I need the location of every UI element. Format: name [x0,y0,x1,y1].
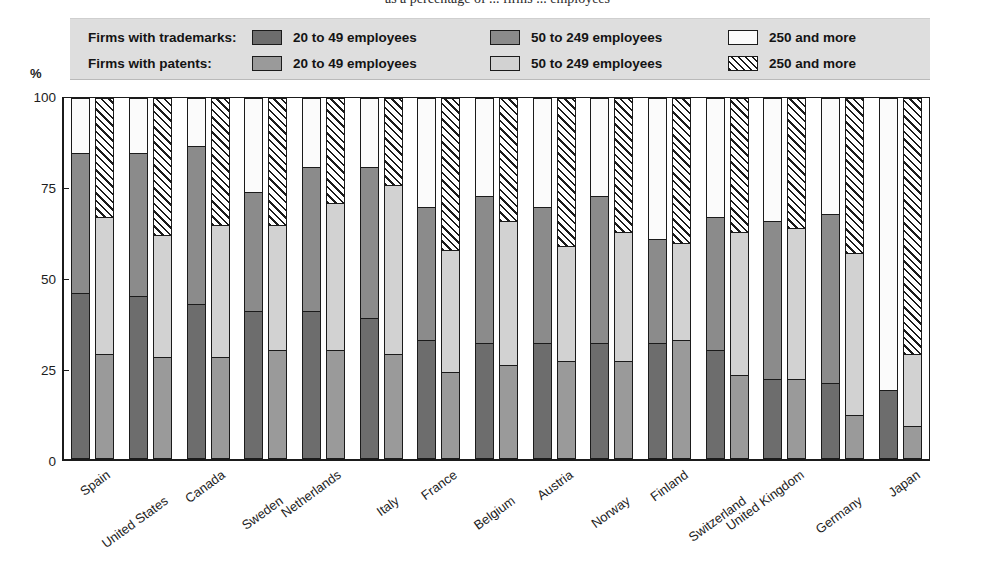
segment-patents-20-to-49 [558,361,575,458]
legend-item-trademarks-medium: 50 to 249 employees [490,30,728,45]
legend-row-label-patents: Firms with patents: [70,56,252,71]
y-tick-label: 50 [16,272,56,287]
segment-trademarks-250-and-more [245,99,262,192]
segment-trademarks-50-to-249 [534,207,551,343]
segment-trademarks-50-to-249 [130,153,147,297]
y-tick-label: 25 [16,363,56,378]
segment-patents-250-and-more [269,99,286,225]
segment-patents-250-and-more [327,99,344,203]
segment-patents-20-to-49 [96,354,113,458]
segment-patents-50-to-249 [442,250,459,372]
segment-trademarks-250-and-more [72,99,89,153]
legend-item-patents-medium: 50 to 249 employees [490,56,728,71]
legend-label-trademarks-small: 20 to 49 employees [293,30,417,45]
segment-trademarks-250-and-more [303,99,320,167]
bar-group [698,98,756,459]
segment-patents-50-to-249 [731,232,748,376]
segment-trademarks-250-and-more [418,99,435,207]
chart-legend: Firms with trademarks: 20 to 49 employee… [70,18,930,80]
x-axis-label: Norway [589,493,633,531]
bar-group [64,98,122,459]
segment-trademarks-250-and-more [361,99,378,167]
segment-patents-20-to-49 [673,340,690,458]
bar-trademarks [417,98,436,459]
segment-patents-250-and-more [904,99,921,354]
bar-patents [672,98,691,459]
x-axis-label: Belgium [471,493,518,533]
bar-trademarks [590,98,609,459]
segment-patents-20-to-49 [442,372,459,458]
segment-patents-50-to-249 [269,225,286,351]
bar-patents [211,98,230,459]
segment-trademarks-20-to-49 [303,311,320,458]
bar-patents [268,98,287,459]
segment-trademarks-50-to-249 [764,221,781,379]
x-axis-label: Netherlands [278,467,344,520]
segment-patents-250-and-more [96,99,113,217]
segment-trademarks-20-to-49 [418,340,435,458]
segment-patents-250-and-more [442,99,459,250]
segment-trademarks-20-to-49 [649,343,666,458]
segment-patents-20-to-49 [269,350,286,458]
segment-trademarks-20-to-49 [361,318,378,458]
segment-patents-250-and-more [788,99,805,228]
bar-trademarks [475,98,494,459]
segment-trademarks-50-to-249 [188,146,205,304]
segment-patents-20-to-49 [904,426,921,458]
bar-trademarks [302,98,321,459]
segment-trademarks-50-to-249 [649,239,666,343]
x-axis-label: United States [98,493,170,551]
bar-trademarks [71,98,90,459]
segment-trademarks-50-to-249 [418,207,435,340]
segment-patents-50-to-249 [558,246,575,361]
legend-row-patents: Firms with patents: 20 to 49 employees 5… [70,50,930,76]
segment-patents-250-and-more [154,99,171,235]
bar-group [583,98,641,459]
segment-patents-20-to-49 [385,354,402,458]
segment-trademarks-250-and-more [130,99,147,153]
bar-trademarks [244,98,263,459]
bar-patents [730,98,749,459]
x-axis-label: Austria [534,467,576,503]
x-axis-label: Finland [648,467,691,504]
legend-label-patents-small: 20 to 49 employees [293,56,417,71]
segment-patents-250-and-more [731,99,748,232]
segment-patents-250-and-more [500,99,517,221]
bar-group [179,98,237,459]
bar-group [410,98,468,459]
swatch-mid-gray-icon [490,30,520,45]
swatch-hatched-icon [728,56,758,71]
segment-patents-250-and-more [558,99,575,246]
segment-patents-50-to-249 [385,185,402,354]
x-axis-label: France [418,467,460,503]
segment-patents-50-to-249 [788,228,805,379]
segment-trademarks-250-and-more [764,99,781,221]
segment-patents-20-to-49 [788,379,805,458]
bar-trademarks [360,98,379,459]
bar-patents [499,98,518,459]
segment-patents-20-to-49 [615,361,632,458]
bar-group [756,98,814,459]
segment-trademarks-20-to-49 [591,343,608,458]
legend-item-patents-small: 20 to 49 employees [252,56,490,71]
bar-group [237,98,295,459]
segment-patents-50-to-249 [327,203,344,350]
segment-patents-20-to-49 [731,375,748,458]
legend-label-trademarks-medium: 50 to 249 employees [531,30,662,45]
bar-group [295,98,353,459]
bar-patents [384,98,403,459]
segment-patents-20-to-49 [327,350,344,458]
bar-group [352,98,410,459]
segment-trademarks-50-to-249 [476,196,493,343]
segment-trademarks-20-to-49 [880,390,897,458]
segment-patents-50-to-249 [96,217,113,353]
legend-label-trademarks-large: 250 and more [769,30,856,45]
swatch-gray-icon [252,56,282,71]
plot-area [62,97,930,461]
x-axis-label: Japan [885,467,922,500]
legend-row-trademarks: Firms with trademarks: 20 to 49 employee… [70,24,930,50]
bar-trademarks [706,98,725,459]
segment-trademarks-50-to-249 [361,167,378,318]
bar-trademarks [879,98,898,459]
bar-patents [845,98,864,459]
